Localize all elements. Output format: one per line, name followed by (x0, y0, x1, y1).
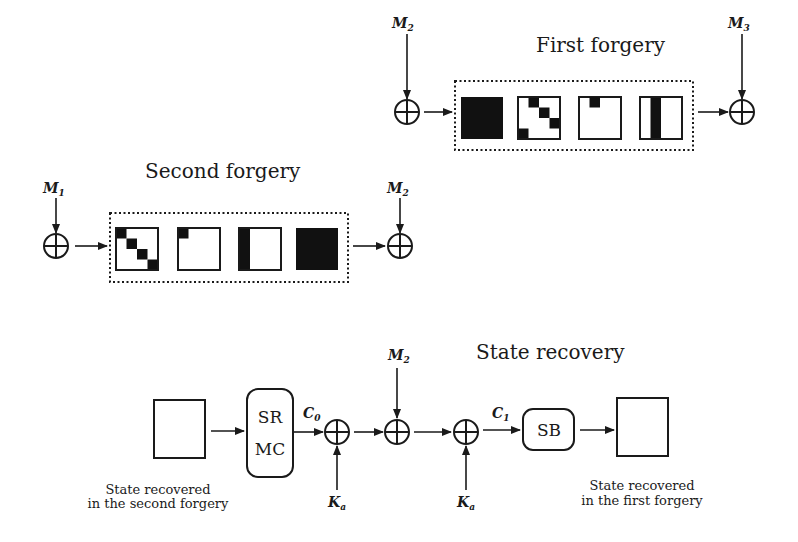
first-forgery-title: First forgery (536, 33, 666, 57)
state-square-diagonal-shifted (518, 97, 560, 139)
state-recovery-title: State recovery (476, 340, 625, 364)
xor-icon (385, 420, 409, 444)
c0-label: C0 (303, 405, 321, 423)
state-square-single-cell (579, 97, 621, 139)
first-forgery-input-label: M2 (391, 15, 414, 33)
xor-icon (454, 420, 478, 444)
sb-label: SB (537, 420, 561, 440)
first-forgery-section: First forgery M2 (391, 15, 754, 150)
left-caption-line1: State recovered (105, 482, 210, 497)
xor-icon (44, 234, 68, 258)
state-recovery-section: State recovery State recovered in the se… (88, 340, 704, 512)
ka2-label: Ka (456, 494, 475, 512)
xor-icon (395, 100, 419, 124)
m2-label: M2 (387, 347, 410, 365)
xor-icon (388, 234, 412, 258)
first-forgery-output-label: M3 (727, 15, 750, 33)
sr-label: SR (258, 407, 284, 427)
second-forgery-output-label: M2 (386, 180, 409, 198)
left-caption-line2: in the second forgery (88, 496, 229, 511)
right-caption-line1: State recovered (589, 478, 694, 493)
xor-icon (325, 420, 349, 444)
mc-label: MC (255, 439, 285, 459)
ka1-label: Ka (327, 494, 346, 512)
srmc-box (247, 389, 293, 477)
second-forgery-input-label: M1 (42, 180, 65, 198)
state-square-column (239, 228, 281, 270)
recovered-state-second-box (154, 400, 205, 458)
forgery-diagram: First forgery M2 (0, 0, 798, 542)
state-square-single-cell (178, 228, 220, 270)
xor-icon (730, 100, 754, 124)
state-square-full-black (461, 97, 503, 139)
second-forgery-title: Second forgery (145, 159, 301, 183)
recovered-state-first-box (617, 398, 668, 456)
state-square-full-black (296, 228, 338, 270)
state-square-diagonal (116, 228, 158, 270)
state-square-column (640, 97, 682, 139)
second-forgery-section: Second forgery M1 (42, 159, 412, 282)
right-caption-line2: in the first forgery (581, 493, 703, 508)
c1-label: C1 (492, 405, 509, 423)
